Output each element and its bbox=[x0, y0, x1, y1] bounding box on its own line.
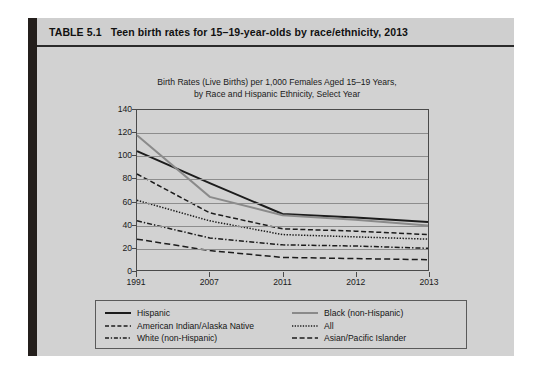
legend-item[interactable]: Black (non-Hispanic) bbox=[292, 307, 478, 320]
y-axis-tick-label: 100 bbox=[104, 150, 132, 160]
x-axis-tick-label: 1991 bbox=[116, 277, 156, 287]
legend-item[interactable]: White (non-Hispanic) bbox=[105, 332, 291, 345]
chart-title: Birth Rates (Live Births) per 1,000 Fema… bbox=[82, 77, 472, 100]
legend-line-swatch-icon bbox=[292, 308, 318, 318]
legend-item-label: American Indian/Alaska Native bbox=[137, 321, 254, 331]
x-axis-tick bbox=[209, 272, 210, 277]
x-axis-tick bbox=[136, 272, 137, 277]
gridline bbox=[137, 203, 428, 204]
legend-item[interactable]: Asian/Pacific Islander bbox=[292, 332, 478, 345]
gridline bbox=[137, 179, 428, 180]
y-axis-tick-label: 60 bbox=[104, 197, 132, 207]
x-axis-tick-label: 2007 bbox=[189, 277, 229, 287]
table-number: TABLE 5.1 bbox=[49, 26, 102, 38]
legend-item-label: Hispanic bbox=[137, 308, 170, 318]
legend-line-swatch-icon bbox=[105, 321, 131, 331]
legend-item-label: Asian/Pacific Islander bbox=[324, 333, 406, 343]
series-line bbox=[137, 151, 428, 222]
x-axis-tick-label: 2011 bbox=[263, 277, 303, 287]
legend-line-swatch-icon bbox=[105, 333, 131, 343]
y-axis-tick-label: 80 bbox=[104, 173, 132, 183]
chart-legend: HispanicAmerican Indian/Alaska NativeWhi… bbox=[95, 300, 467, 349]
y-axis-labels: 020406080100120140 bbox=[101, 109, 132, 271]
x-axis-labels: 19912007201120122013 bbox=[136, 273, 429, 289]
y-axis-tick-label: 20 bbox=[104, 243, 132, 253]
legend-line-swatch-icon bbox=[292, 333, 318, 343]
table-header: TABLE 5.1 Teen birth rates for 15–19-yea… bbox=[37, 18, 514, 46]
gridline bbox=[137, 133, 428, 134]
legend-item[interactable]: All bbox=[292, 320, 478, 333]
gridline bbox=[137, 156, 428, 157]
legend-item[interactable]: American Indian/Alaska Native bbox=[105, 320, 291, 333]
legend-column-left: HispanicAmerican Indian/Alaska NativeWhi… bbox=[105, 307, 291, 345]
legend-item-label: All bbox=[324, 321, 334, 331]
legend-item-label: Black (non-Hispanic) bbox=[324, 308, 403, 318]
y-axis-tick-label: 140 bbox=[104, 104, 132, 114]
x-axis-tick bbox=[356, 272, 357, 277]
table-figure-block: TABLE 5.1 Teen birth rates for 15–19-yea… bbox=[28, 18, 514, 356]
x-axis-tick-label: 2012 bbox=[336, 277, 376, 287]
gridline bbox=[137, 249, 428, 250]
x-axis-tick bbox=[429, 272, 430, 277]
chart-figure: Birth Rates (Live Births) per 1,000 Fema… bbox=[37, 47, 514, 356]
table-left-accent-bar bbox=[28, 18, 37, 356]
x-axis-tick bbox=[283, 272, 284, 277]
y-axis-tick-label: 120 bbox=[104, 127, 132, 137]
y-axis-tick-label: 40 bbox=[104, 220, 132, 230]
plot-area bbox=[136, 109, 429, 271]
legend-item[interactable]: Hispanic bbox=[105, 307, 291, 320]
y-axis-tick-label: 0 bbox=[104, 266, 132, 276]
chart-title-line-2: by Race and Hispanic Ethnicity, Select Y… bbox=[82, 89, 472, 101]
legend-item-label: White (non-Hispanic) bbox=[137, 333, 217, 343]
table-caption: Teen birth rates for 15–19-year-olds by … bbox=[111, 26, 408, 38]
gridline bbox=[137, 226, 428, 227]
x-axis-tick-label: 2013 bbox=[409, 277, 449, 287]
legend-line-swatch-icon bbox=[292, 321, 318, 331]
legend-line-swatch-icon bbox=[105, 308, 131, 318]
legend-column-right: Black (non-Hispanic)AllAsian/Pacific Isl… bbox=[292, 307, 478, 345]
chart-title-line-1: Birth Rates (Live Births) per 1,000 Fema… bbox=[82, 77, 472, 89]
